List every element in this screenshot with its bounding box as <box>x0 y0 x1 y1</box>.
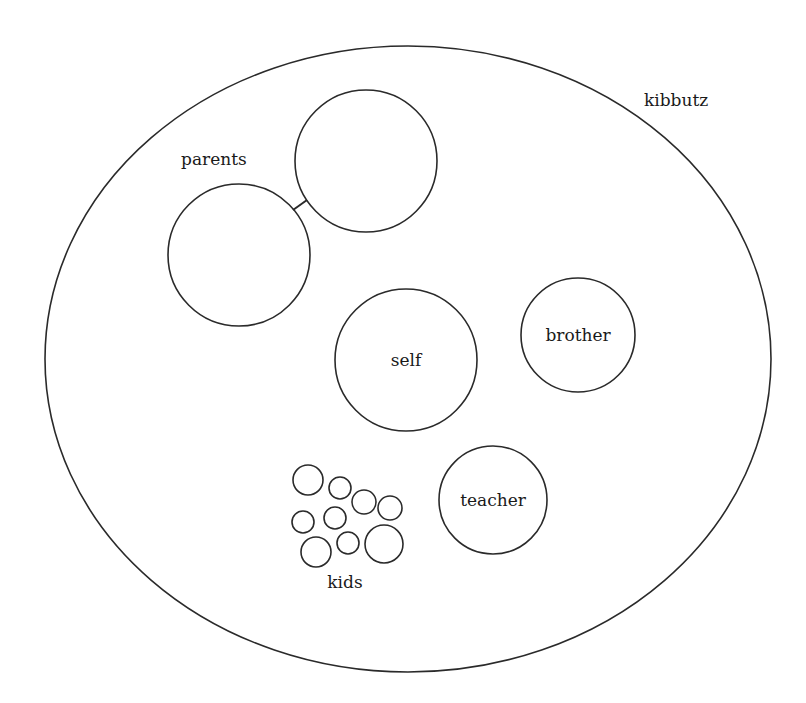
parent-circle <box>168 184 310 326</box>
kid-circle <box>352 490 376 514</box>
self-label: self <box>391 350 423 370</box>
brother-label: brother <box>545 325 611 345</box>
parents-label: parents <box>181 149 247 169</box>
kid-circle <box>292 511 314 533</box>
teacher-group: teacher <box>439 446 547 554</box>
kid-circle <box>293 465 323 495</box>
parent-circle <box>295 90 437 232</box>
kids-group: kids <box>292 465 403 592</box>
kibbutz-diagram: kibbutz parents self brother teacher kid… <box>0 0 806 703</box>
kids-label: kids <box>327 572 362 592</box>
teacher-label: teacher <box>460 490 527 510</box>
kid-circle <box>378 496 402 520</box>
kid-circle <box>329 477 351 499</box>
brother-group: brother <box>521 278 635 392</box>
parents-connector-line <box>293 200 307 210</box>
kid-circle <box>301 537 331 567</box>
kid-circle <box>337 532 359 554</box>
self-group: self <box>335 289 477 431</box>
parents-group: parents <box>168 90 437 326</box>
kid-circle <box>365 525 403 563</box>
kibbutz-label: kibbutz <box>644 90 708 110</box>
kid-circle <box>324 507 346 529</box>
